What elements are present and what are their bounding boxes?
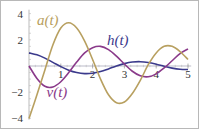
chart-frame: 1234542−2−4 h(t)v(t)a(t) bbox=[0, 0, 199, 129]
y-tick-label: −2 bbox=[11, 86, 23, 98]
y-tick-label: −4 bbox=[11, 112, 23, 124]
series-label-v: v(t) bbox=[46, 84, 67, 101]
y-tick-label: 4 bbox=[18, 8, 24, 20]
series-label-h: h(t) bbox=[107, 32, 129, 49]
series-label-a: a(t) bbox=[37, 12, 59, 29]
line-chart: 1234542−2−4 h(t)v(t)a(t) bbox=[1, 1, 199, 129]
y-tick-label: 2 bbox=[18, 34, 24, 46]
x-tick-label: 3 bbox=[122, 68, 128, 80]
series-labels: h(t)v(t)a(t) bbox=[37, 12, 129, 101]
series-line-h bbox=[29, 53, 188, 74]
x-tick-label: 1 bbox=[58, 68, 64, 80]
